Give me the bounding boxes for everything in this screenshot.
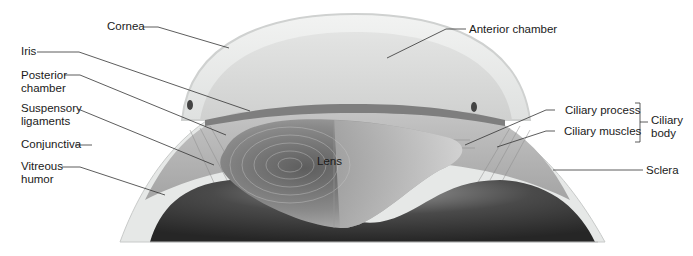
label-ciliary-muscles: Ciliary muscles <box>564 125 641 138</box>
label-suspensory-ligaments-line2: ligaments <box>21 115 82 128</box>
label-ciliary-body: Ciliary body <box>651 114 683 140</box>
label-posterior-chamber-line1: Posterior <box>21 69 67 82</box>
eye-anatomy-diagram: Cornea Anterior chamber Iris Posterior c… <box>0 0 693 256</box>
label-vitreous-humor-line1: Vitreous <box>21 160 63 173</box>
label-suspensory-ligaments: Suspensory ligaments <box>21 102 82 128</box>
label-lens: Lens <box>317 155 342 168</box>
label-anterior-chamber: Anterior chamber <box>469 23 557 36</box>
label-conjunctiva: Conjunctiva <box>21 138 81 151</box>
label-posterior-chamber-line2: chamber <box>21 82 67 95</box>
scleral-venous-sinus-right <box>471 102 477 112</box>
scleral-venous-sinus-left <box>187 100 193 110</box>
label-suspensory-ligaments-line1: Suspensory <box>21 102 82 115</box>
label-cornea: Cornea <box>107 20 145 33</box>
label-vitreous-humor: Vitreous humor <box>21 160 63 186</box>
label-sclera: Sclera <box>646 164 679 177</box>
label-ciliary-body-line1: Ciliary <box>651 114 683 127</box>
label-vitreous-humor-line2: humor <box>21 173 63 186</box>
label-ciliary-body-line2: body <box>651 127 683 140</box>
label-ciliary-process: Ciliary process <box>565 104 640 117</box>
label-posterior-chamber: Posterior chamber <box>21 69 67 95</box>
label-iris: Iris <box>21 45 36 58</box>
